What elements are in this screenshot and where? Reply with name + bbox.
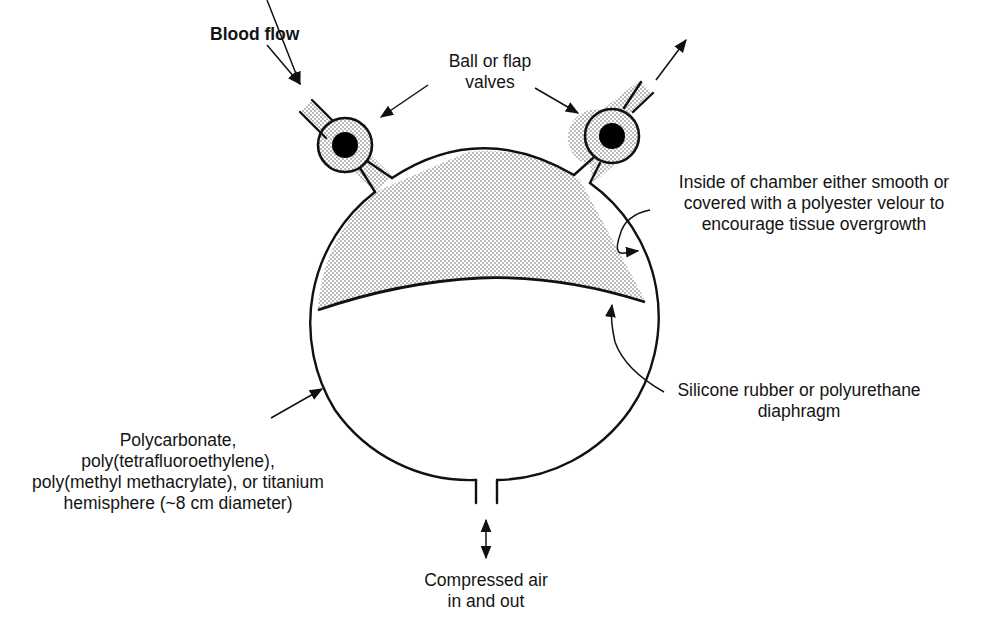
chamber-inside-line-1: Inside of chamber either smooth or [654,172,974,193]
artificial-heart-diagram [0,0,997,632]
housing-pointer [271,389,322,418]
blood-flow-out-arrow [656,40,686,80]
valves-label-line-1: Ball or flap [423,51,557,72]
inlet-valve-assembly [300,100,392,192]
housing-label-line-3: poly(methyl methacrylate), or titanium [22,472,334,493]
compressed-air-label: Compressed air in and out [400,570,572,612]
housing-material-label: Polycarbonate, poly(tetrafluoroethylene)… [22,430,334,514]
diaphragm-label-line-2: diaphragm [668,401,930,422]
outlet-ball-valve [599,123,625,149]
chamber-inside-line-2: covered with a polyester velour to [654,193,974,214]
air-label-line-1: Compressed air [400,570,572,591]
housing-label-line-4: hemisphere (~8 cm diameter) [22,493,334,514]
blood-flow-in-arrow-line [267,45,300,84]
chamber-inside-label: Inside of chamber either smooth or cover… [654,172,974,235]
chamber-inside-line-3: encourage tissue overgrowth [654,214,974,235]
outlet-valve-assembly [568,80,652,183]
valves-label-line-2: valves [423,72,557,93]
inlet-ball-valve [332,132,358,158]
air-label-line-2: in and out [400,591,572,612]
valve-left-pointer [381,85,428,117]
blood-flow-label: Blood flow [210,24,299,45]
housing-label-line-1: Polycarbonate, [22,430,334,451]
housing-label-line-2: poly(tetrafluoroethylene), [22,451,334,472]
diaphragm-label: Silicone rubber or polyurethane diaphrag… [668,380,930,422]
valves-label: Ball or flap valves [423,51,557,93]
diaphragm-label-line-1: Silicone rubber or polyurethane [668,380,930,401]
